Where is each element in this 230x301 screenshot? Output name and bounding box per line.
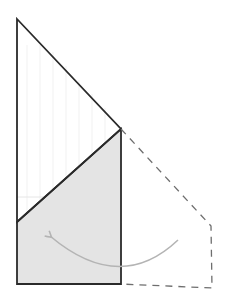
folded-flap (17, 129, 121, 284)
folding-diagram (0, 0, 230, 301)
